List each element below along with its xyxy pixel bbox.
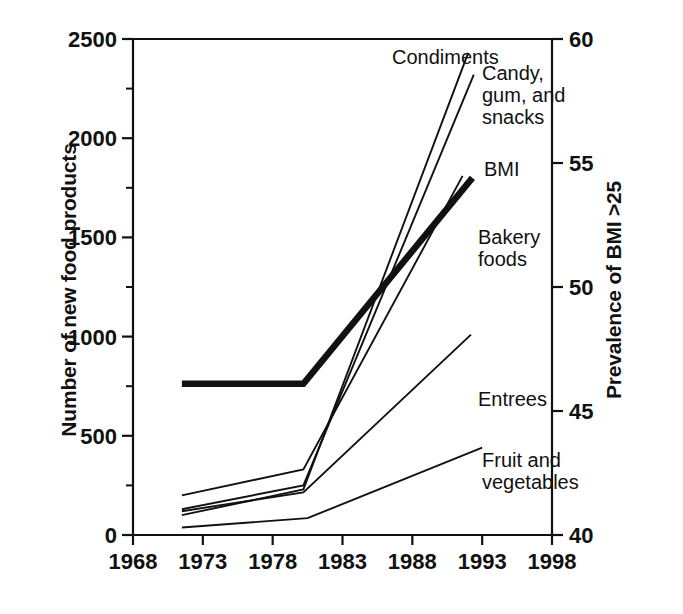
series-label: foods — [478, 248, 527, 270]
y-axis-right-tick-label: 45 — [569, 399, 593, 424]
x-axis-tick-label: 1973 — [178, 549, 227, 574]
x-axis-ticks: 1968197319781983198819931998 — [109, 535, 577, 574]
x-axis-tick-label: 1978 — [248, 549, 297, 574]
y-axis-left-tick-label: 0 — [105, 523, 117, 548]
data-series-group — [182, 53, 482, 528]
y-axis-left-tick-label: 1000 — [68, 325, 117, 350]
x-axis-tick-label: 1993 — [458, 549, 507, 574]
y-axis-right-tick-label: 55 — [569, 151, 593, 176]
y-axis-left-tick-label: 1500 — [68, 225, 117, 250]
x-axis-tick-label: 1988 — [388, 549, 437, 574]
y-axis-right-tick-label: 40 — [569, 523, 593, 548]
series-label: Fruit and — [482, 449, 561, 471]
series-labels-group: CondimentsCandy,gum, andsnacksBMIBakeryf… — [392, 46, 579, 493]
series-line-fruit-and-vegetables — [182, 448, 482, 528]
x-axis-tick-label: 1998 — [528, 549, 577, 574]
x-axis-tick-label: 1983 — [318, 549, 367, 574]
y-axis-left-tick-label: 2000 — [68, 126, 117, 151]
series-line-condiments — [182, 53, 468, 515]
series-label: Candy, — [482, 62, 544, 84]
y-axis-left-ticks: 05001000150020002500 — [68, 27, 133, 548]
series-label: Bakery — [478, 226, 540, 248]
chart-figure: Number of new food products Prevalence o… — [0, 0, 683, 614]
series-line-bmi — [182, 178, 473, 384]
series-label: Entrees — [478, 388, 547, 410]
y-axis-right-tick-label: 50 — [569, 275, 593, 300]
y-axis-right-tick-label: 60 — [569, 27, 593, 52]
series-label: BMI — [484, 158, 520, 180]
chart-plot: 05001000150020002500 4045505560 19681973… — [0, 0, 683, 614]
series-label: vegetables — [482, 471, 579, 493]
series-line-candy-gum-and-snacks — [182, 75, 474, 510]
series-label: gum, and — [482, 84, 565, 106]
series-label: snacks — [482, 106, 544, 128]
y-axis-left-tick-label: 2500 — [68, 27, 117, 52]
x-axis-tick-label: 1968 — [109, 549, 158, 574]
y-axis-left-tick-label: 500 — [80, 424, 117, 449]
series-line-bakery-foods — [182, 176, 463, 495]
series-line-entrees — [182, 335, 471, 512]
